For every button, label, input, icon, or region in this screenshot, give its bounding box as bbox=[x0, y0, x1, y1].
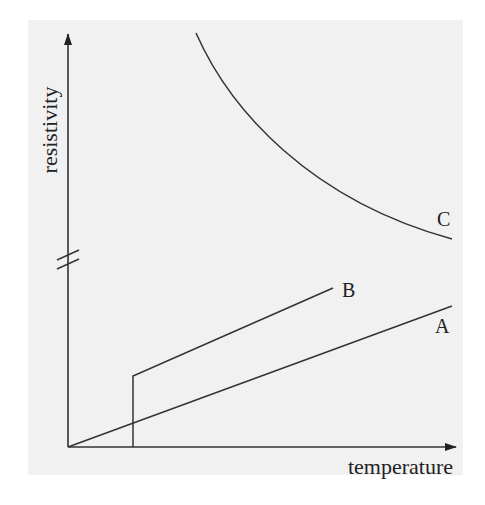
resistivity-temperature-diagram: resistivity temperature C B A bbox=[0, 0, 485, 505]
line-a-label: A bbox=[435, 315, 450, 337]
x-axis-label: temperature bbox=[348, 454, 453, 479]
y-axis-label: resistivity bbox=[37, 87, 62, 174]
line-a bbox=[68, 306, 452, 447]
diagram-canvas: resistivity temperature C B A bbox=[0, 0, 485, 505]
line-b bbox=[133, 288, 333, 447]
curve-c bbox=[196, 33, 452, 239]
curve-c-label: C bbox=[437, 208, 450, 230]
line-b-label: B bbox=[342, 279, 355, 301]
